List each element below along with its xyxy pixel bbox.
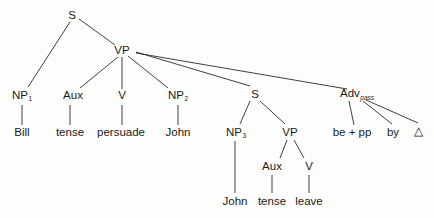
node-s-root: S <box>68 10 76 22</box>
node-vp-embedded: VP <box>282 127 297 139</box>
node-v1: V <box>118 90 126 102</box>
leaf-tense-1: tense <box>56 127 84 139</box>
tree-edge <box>128 56 168 88</box>
tree-edge <box>240 101 250 124</box>
leaf-john-1: John <box>166 127 191 139</box>
delta-icon: △ <box>414 126 423 138</box>
tree-edge <box>80 57 118 88</box>
node-aux1: Aux <box>63 90 83 102</box>
node-adv-pass: Advpass <box>340 88 374 102</box>
leaf-john-2: John <box>223 196 248 208</box>
leaf-persuade: persuade <box>97 127 145 139</box>
node-vp: VP <box>114 45 129 57</box>
leaf-leave: leave <box>295 196 323 208</box>
tree-edge <box>363 101 392 124</box>
node-np1: NP1 <box>12 90 32 103</box>
tree-edge <box>349 101 354 125</box>
leaf-bill: Bill <box>14 127 29 139</box>
tree-edge <box>366 100 418 123</box>
node-v2: V <box>305 161 313 173</box>
tree-edges <box>0 0 434 218</box>
node-aux2: Aux <box>262 161 282 173</box>
tree-edge <box>28 22 70 87</box>
tree-edge <box>136 52 250 86</box>
node-np2: NP2 <box>168 90 188 103</box>
tree-edge <box>294 140 304 158</box>
leaf-by: by <box>387 127 399 139</box>
tree-edge <box>280 140 287 158</box>
syntax-tree-diagram: S VP NP1 Aux V NP2 S Advpass Bill tense … <box>0 0 434 218</box>
tree-edge <box>260 101 285 124</box>
node-s-embedded: S <box>251 89 259 101</box>
leaf-be-pp: be + pp <box>333 127 372 139</box>
leaf-tense-2: tense <box>258 196 286 208</box>
node-np3: NP3 <box>226 127 246 140</box>
tree-edge <box>79 19 115 45</box>
